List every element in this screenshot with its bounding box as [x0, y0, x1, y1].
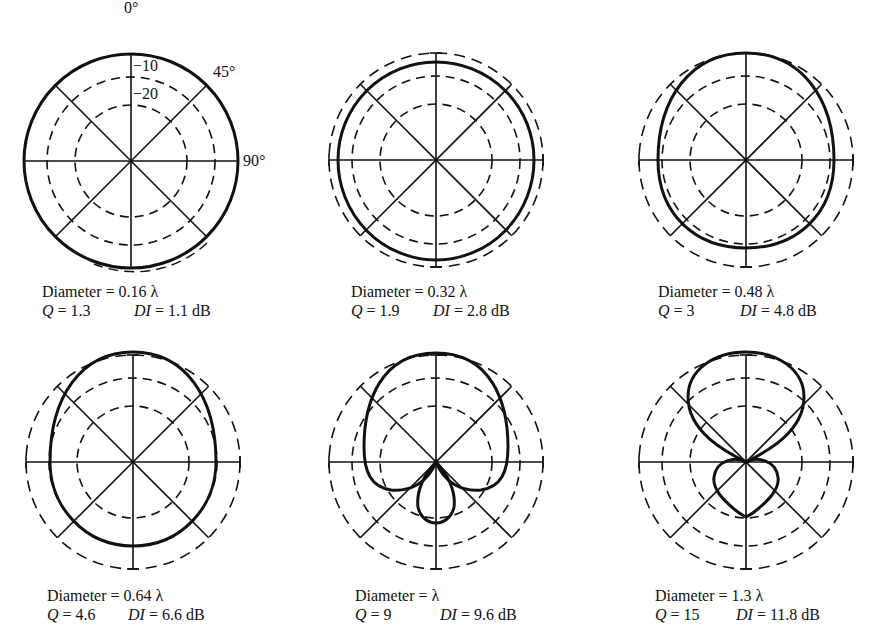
diameter-label: Diameter = 1.3 λ	[655, 586, 820, 605]
caption-chart-3: Diameter = 0.48 λ Q = 3DI = 4.8 dB	[658, 282, 817, 320]
di-value: = 9.6 dB	[461, 605, 517, 624]
q-value: = 1.9	[367, 301, 400, 320]
di-value: = 6.6 dB	[149, 605, 205, 624]
di-value: = 11.8 dB	[757, 605, 820, 624]
polar-chart-2	[329, 53, 543, 267]
polar-chart-6	[639, 352, 853, 569]
q-value: = 15	[671, 605, 700, 624]
diameter-label: Diameter = 0.32 λ	[351, 282, 510, 301]
q-value: = 9	[371, 605, 392, 624]
q-value: = 3	[674, 301, 695, 320]
diameter-label: Diameter = 0.16 λ	[42, 282, 211, 301]
q-value: = 1.3	[58, 301, 91, 320]
polar-chart-4	[26, 352, 240, 569]
ring-label-minus-20: −20	[133, 86, 158, 102]
di-value: = 4.8 dB	[761, 301, 817, 320]
angle-label-0: 0°	[124, 0, 138, 16]
caption-chart-2: Diameter = 0.32 λ Q = 1.9DI = 2.8 dB	[351, 282, 510, 320]
diameter-label: Diameter = λ	[355, 586, 517, 605]
caption-chart-5: Diameter = λ Q = 9DI = 9.6 dB	[355, 586, 517, 624]
diameter-label: Diameter = 0.64 λ	[47, 586, 205, 605]
angle-label-90: 90°	[243, 153, 265, 169]
diameter-label: Diameter = 0.48 λ	[658, 282, 817, 301]
polar-chart-1	[24, 54, 238, 272]
caption-chart-1: Diameter = 0.16 λ Q = 1.3DI = 1.1 dB	[42, 282, 211, 320]
ring-label-minus-10: −10	[133, 58, 158, 74]
caption-chart-4: Diameter = 0.64 λ Q = 4.6DI = 6.6 dB	[47, 586, 205, 624]
di-value: = 1.1 dB	[155, 301, 211, 320]
caption-chart-6: Diameter = 1.3 λ Q = 15DI = 11.8 dB	[655, 586, 820, 624]
q-value: = 4.6	[63, 605, 96, 624]
polar-chart-3	[639, 53, 853, 267]
di-value: = 2.8 dB	[454, 301, 510, 320]
polar-chart-5	[329, 353, 543, 569]
angle-label-45: 45°	[213, 64, 235, 80]
